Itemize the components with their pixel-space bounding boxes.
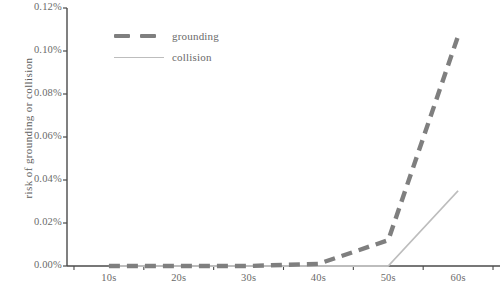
- legend-label-grounding: grounding: [168, 30, 219, 42]
- legend-label-collision: collision: [168, 51, 212, 63]
- legend-item-grounding: grounding: [112, 25, 262, 46]
- solid-line-icon: [112, 52, 168, 62]
- legend-item-collision: collision: [112, 46, 262, 67]
- chart-legend: grounding collision: [112, 25, 262, 67]
- series-line-collision: [109, 191, 458, 266]
- series-line-grounding: [109, 36, 458, 266]
- dashed-line-icon: [112, 31, 168, 41]
- chart-figure: risk of grounding or collision 0.12%0.10…: [0, 0, 503, 295]
